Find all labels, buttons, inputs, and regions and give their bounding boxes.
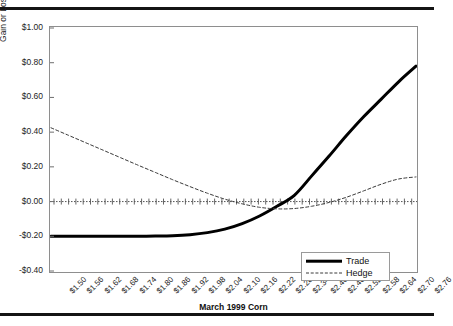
y-axis-tick-label: $0.80 xyxy=(22,57,43,67)
y-axis-tick-label: $0.00 xyxy=(22,196,43,206)
x-axis-tick-label: $1.50 xyxy=(68,275,89,296)
x-axis-tick-label: $2.10 xyxy=(242,275,263,296)
y-axis-tick-label: $0.40 xyxy=(22,126,43,136)
legend-swatch-dashed-icon xyxy=(306,268,342,278)
x-axis-tick-label: $2.70 xyxy=(415,275,436,296)
x-axis-tick-label: $1.74 xyxy=(137,275,158,296)
x-axis-tick-label: $1.68 xyxy=(120,275,141,296)
legend-swatch-solid-icon xyxy=(306,256,342,266)
x-axis-tick-label: $2.64 xyxy=(398,275,419,296)
y-axis-tick-label: $1.00 xyxy=(22,22,43,32)
y-axis-tick-label: $0.60 xyxy=(22,91,43,101)
legend-label-trade: Trade xyxy=(346,256,369,266)
x-axis-tick-label: $2.04 xyxy=(224,275,245,296)
legend-entry-trade: Trade xyxy=(306,255,369,267)
y-axis-title: Gain or Loss ($) per Bushel xyxy=(0,0,8,70)
legend-label-hedge: Hedge xyxy=(346,268,373,278)
y-axis-tick-label: -$0.40 xyxy=(19,265,43,275)
y-axis-tick-label: -$0.20 xyxy=(19,230,43,240)
x-axis-tick-label: $1.56 xyxy=(85,275,106,296)
x-axis-tick-label: $1.86 xyxy=(172,275,193,296)
x-axis-tick-label: $1.92 xyxy=(190,275,211,296)
series-group xyxy=(51,66,416,236)
legend-entry-hedge: Hedge xyxy=(306,267,373,279)
series-line-hedge xyxy=(51,128,416,209)
chart-legend: Trade Hedge xyxy=(301,252,390,281)
x-axis-tick-label: $2.76 xyxy=(433,275,453,296)
chart-svg xyxy=(50,27,417,272)
x-axis-title: March 1999 Corn xyxy=(49,302,418,312)
x-axis-tick-label: $1.80 xyxy=(155,275,176,296)
plot-area xyxy=(49,26,418,273)
page-header-strip xyxy=(0,0,434,6)
x-axis-tick-label: $2.22 xyxy=(276,275,297,296)
bottom-rule xyxy=(0,313,434,316)
x-axis-tick-label: $2.16 xyxy=(259,275,280,296)
y-axis-tick-label: $0.20 xyxy=(22,161,43,171)
x-axis-tick-label: $1.62 xyxy=(103,275,124,296)
figure-container: $1.00$0.80$0.60$0.40$0.20$0.00-$0.20-$0.… xyxy=(0,10,434,316)
x-axis-tick-label: $1.98 xyxy=(207,275,228,296)
